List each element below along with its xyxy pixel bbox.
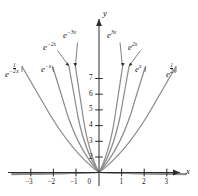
curve-e-half-x xyxy=(12,67,176,175)
curve-label-exp-var-e-half-x: x xyxy=(173,68,175,74)
curve-label-e-half-x: e12x xyxy=(166,63,176,79)
x-tick-label-0: 0 xyxy=(88,179,92,186)
y-tick-label-6: 6 xyxy=(89,91,93,98)
curve-label-e-neg-half-x: e−12x xyxy=(5,63,19,79)
curve-label-exp-e-neg-x: −x xyxy=(45,63,51,69)
curve-label-e-neg-2x: e−2x xyxy=(43,42,56,52)
y-tick-label-4: 4 xyxy=(89,122,93,129)
curve-label-e-x: ex xyxy=(135,64,141,74)
x-axis-label: x xyxy=(186,167,190,176)
curve-label-exp-e-3x: 3x xyxy=(111,29,116,35)
curve-label-exp-e-x: x xyxy=(139,63,141,69)
y-tick-label-2: 2 xyxy=(89,154,93,161)
curve-label-exp-e-neg-2x: −2x xyxy=(47,41,56,47)
leader-arrow-e-neg-3x xyxy=(73,63,77,67)
curve-label-exp-e-2x: 2x xyxy=(132,41,137,47)
curve-label-exp-e-neg-3x: −3x xyxy=(67,29,76,35)
leader-e-neg-3x xyxy=(76,43,78,65)
leader-arrow-e-2x xyxy=(129,63,133,67)
y-axis-label: y xyxy=(103,9,107,18)
curve-label-e-2x: e2x xyxy=(128,42,137,52)
x-tick-label--3: −3 xyxy=(25,179,33,186)
x-tick-label-2: 2 xyxy=(142,179,146,186)
leader-arrow-e-3x xyxy=(121,63,125,67)
plot-canvas xyxy=(0,0,198,196)
leader-e-neg-2x xyxy=(58,51,69,66)
curve-label-e-3x: e3x xyxy=(107,30,116,40)
y-axis-arrowhead xyxy=(96,19,102,26)
exponential-functions-figure: x y −3 −2 −1 0 1 2 3 2 3 4 5 6 7 e−12x e… xyxy=(0,0,198,196)
curve-e-2x xyxy=(12,67,129,174)
x-tick-label-3: 3 xyxy=(165,179,169,186)
x-tick-label-1: 1 xyxy=(120,179,124,186)
curve-e-neg-half-x xyxy=(22,67,186,175)
y-tick-label-7: 7 xyxy=(89,75,93,82)
y-tick-label-3: 3 xyxy=(89,138,93,145)
x-tick-label--1: −1 xyxy=(70,179,78,186)
curve-label-exp-var-e-neg-half-x: x xyxy=(16,68,18,74)
curve-label-e-neg-3x: e−3x xyxy=(63,30,76,40)
y-tick-label-5: 5 xyxy=(89,106,93,113)
leader-e-3x xyxy=(120,43,122,65)
x-tick-label--2: −2 xyxy=(48,179,56,186)
curve-label-e-neg-x: e−x xyxy=(41,64,51,74)
leader-arrow-e-neg-2x xyxy=(66,63,70,67)
curve-e-3x xyxy=(12,67,123,174)
curve-e-neg-2x xyxy=(69,67,186,174)
